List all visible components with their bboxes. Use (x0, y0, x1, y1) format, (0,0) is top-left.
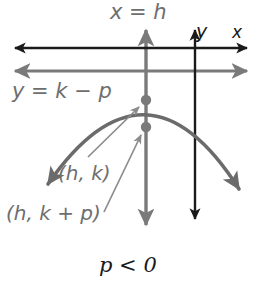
vertex-point (141, 95, 151, 105)
directrix-label: y = k − p (12, 81, 112, 102)
diagram-canvas (0, 0, 259, 289)
x-axis-label: x (232, 24, 242, 41)
y-axis-label: y (196, 22, 207, 41)
parabola-diagram: x = h y x y = k − p (h, k) (h, k + p) p … (0, 0, 259, 289)
focus-point (141, 122, 151, 132)
axis-of-symmetry-label: x = h (110, 2, 167, 23)
focus-label: (h, k + p) (6, 203, 101, 223)
condition-label: p < 0 (99, 255, 157, 276)
vertex-label: (h, k) (58, 163, 111, 183)
